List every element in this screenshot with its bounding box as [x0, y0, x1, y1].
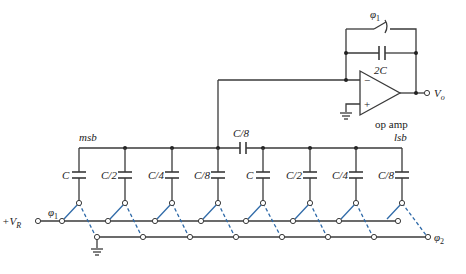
- switch-0: [59, 200, 99, 239]
- switch-4: [243, 200, 284, 239]
- capacitor-msb-1: C/2: [101, 148, 132, 203]
- capacitor-msb-0: C: [62, 148, 86, 203]
- svg-text:C/4: C/4: [148, 169, 164, 181]
- lsb-capacitor-array: C C/2 C/4 C/8: [246, 148, 409, 203]
- phi1-label: φ1: [48, 206, 58, 221]
- svg-text:C: C: [246, 169, 254, 181]
- bridge-cap-label: C/8: [233, 127, 249, 139]
- output-terminal: [424, 90, 429, 95]
- op-amp-label: op amp: [375, 118, 408, 130]
- switch-7: [387, 200, 426, 235]
- capacitor-msb-2: C/4: [148, 148, 179, 203]
- switch-1: [105, 200, 145, 239]
- switch-2: [152, 200, 192, 239]
- capacitor-lsb-2: C/4: [332, 148, 363, 203]
- svg-text:+: +: [364, 98, 370, 110]
- switch-5: [290, 200, 330, 239]
- msb-label: msb: [79, 131, 97, 143]
- ground-icon: [340, 113, 352, 119]
- switch-array: [59, 200, 426, 239]
- capacitor-lsb-0: C: [246, 148, 270, 203]
- phi2-terminal: [425, 234, 430, 239]
- svg-text:−: −: [364, 74, 370, 86]
- feedback-switch: [374, 22, 386, 29]
- capacitor-msb-3: C/8: [194, 148, 225, 203]
- svg-text:C/2: C/2: [101, 169, 117, 181]
- svg-text:C/2: C/2: [286, 169, 302, 181]
- lsb-label: lsb: [394, 131, 407, 143]
- feedback-switch-label: φ1: [370, 8, 380, 23]
- msb-capacitor-array: C C/2 C/4 C/8: [62, 148, 225, 203]
- switch-3: [198, 200, 238, 239]
- svg-text:C/4: C/4: [332, 169, 348, 181]
- svg-text:C/8: C/8: [378, 169, 394, 181]
- vr-label: +VR: [2, 215, 21, 230]
- capacitor-lsb-3: C/8: [378, 148, 409, 203]
- dac-circuit-diagram: φ1 2C − + op amp Vo: [0, 0, 466, 274]
- capacitor-bus: C/8 msb lsb: [79, 80, 407, 154]
- phi2-label: φ2: [434, 231, 444, 246]
- ground-icon: [91, 249, 103, 255]
- svg-text:C: C: [62, 169, 70, 181]
- svg-text:C/8: C/8: [194, 169, 210, 181]
- switch-6: [336, 200, 376, 239]
- feedback-cap-label: 2C: [374, 64, 388, 76]
- capacitor-lsb-1: C/2: [286, 148, 317, 203]
- vr-input-terminal: [35, 218, 40, 223]
- op-amp-block: φ1 2C − + op amp Vo: [218, 8, 445, 130]
- output-label: Vo: [434, 87, 445, 102]
